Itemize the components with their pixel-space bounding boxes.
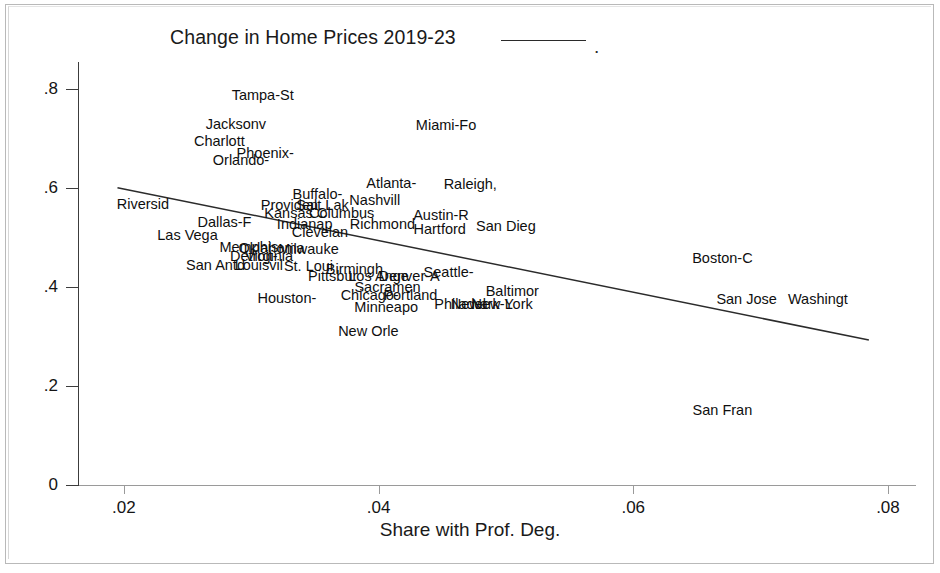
scatter-point-label: Jacksonv [206,117,266,132]
y-tick-label: .4 [0,277,58,297]
y-axis-line [78,62,79,485]
scatter-point-label: New Orle [338,323,398,338]
scatter-point-label: San Jose [716,292,776,307]
y-tick-label: .8 [0,79,58,99]
scatter-point-label: Houston- [257,291,316,306]
x-tick-label: .04 [367,498,391,518]
scatter-point-label: Louisvil [235,258,283,273]
scatter-point-label: Las Vega [157,227,217,242]
y-tick-mark [66,485,79,486]
page-border-inner [8,6,931,559]
scatter-point-label: Washingt [788,292,848,307]
scatter-point-label: Atlanta- [366,176,416,191]
figure-canvas: Change in Home Prices 2019-23 . 0.2.4.6.… [0,0,940,573]
scatter-point-label: San Dieg [476,219,536,234]
y-tick-label: 0 [0,475,58,495]
fitted-values-legend-line [501,40,586,41]
scatter-point-label: Richmond [350,217,415,232]
y-tick-mark [66,89,79,90]
y-tick-mark [66,386,79,387]
y-tick-mark [66,188,79,189]
x-tick-label: .02 [112,498,136,518]
x-axis-title: Share with Prof. Deg. [0,519,940,541]
scatter-point-label: Riversid [117,197,169,212]
x-tick-label: .08 [876,498,900,518]
scatter-point-label: Hartford [413,221,465,236]
x-tick-mark [888,485,889,494]
scatter-point-label: Minneapo [354,300,418,315]
scatter-point-label: Miami-Fo [416,118,476,133]
scatter-point-label: Clevelan [292,224,348,239]
x-axis-line [78,485,916,486]
scatter-point-label: New York [471,297,532,312]
y-tick-label: .2 [0,376,58,396]
scatter-point-label: Orlando- [213,153,269,168]
y-tick-mark [66,287,79,288]
x-tick-mark [124,485,125,494]
scatter-point-label: Boston-C [692,251,752,266]
scatter-point-label: Raleigh, [444,177,497,192]
chart-title: Change in Home Prices 2019-23 [170,26,456,49]
x-tick-mark [379,485,380,494]
scatter-point-label: Tampa-St [232,88,294,103]
x-tick-label: .06 [621,498,645,518]
title-suffix-dot: . [594,36,599,58]
y-tick-label: .6 [0,178,58,198]
x-tick-mark [633,485,634,494]
scatter-point-label: San Fran [693,403,753,418]
